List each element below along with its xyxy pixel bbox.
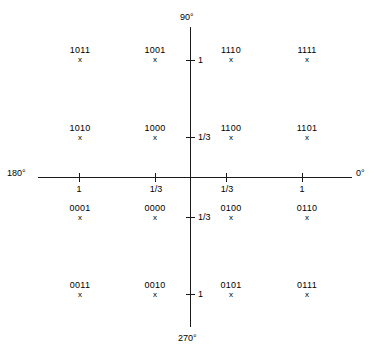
- tick-label-right-outer: 1: [299, 184, 304, 194]
- tick-label-top-inner: 1/3: [198, 132, 211, 142]
- constellation-point: 0010 x: [144, 280, 165, 299]
- tick-label-top-outer: 1: [198, 55, 203, 65]
- constellation-point: 1011 x: [70, 45, 91, 64]
- point-marker-icon: x: [221, 134, 242, 142]
- constellation-point: 0001 x: [69, 203, 90, 222]
- axis-label-90deg: 90°: [180, 12, 194, 22]
- horizontal-axis: [38, 177, 352, 178]
- point-marker-icon: x: [69, 214, 90, 222]
- axis-label-0deg: 0°: [356, 168, 365, 178]
- tick-label-left-inner: 1/3: [150, 184, 163, 194]
- constellation-point: 0110 x: [297, 203, 318, 222]
- tick-top-outer: [186, 60, 195, 61]
- constellation-point: 1111 x: [297, 45, 316, 64]
- constellation-point: 1101 x: [297, 123, 318, 142]
- point-marker-icon: x: [70, 56, 91, 64]
- point-marker-icon: x: [144, 56, 165, 64]
- constellation-point: 1110 x: [221, 45, 241, 64]
- point-marker-icon: x: [70, 291, 91, 299]
- constellation-point: 0111 x: [297, 280, 317, 299]
- tick-left-inner: [155, 173, 156, 182]
- tick-label-right-inner: 1/3: [221, 184, 234, 194]
- constellation-point: 1010 x: [69, 123, 90, 142]
- tick-bottom-inner: [186, 217, 195, 218]
- point-marker-icon: x: [297, 56, 316, 64]
- constellation-point: 0011 x: [70, 280, 91, 299]
- vertical-axis: [190, 27, 191, 327]
- point-marker-icon: x: [144, 291, 165, 299]
- constellation-point: 0101 x: [220, 280, 241, 299]
- tick-label-bottom-outer: 1: [198, 289, 203, 299]
- constellation-point: 0100 x: [220, 203, 241, 222]
- point-marker-icon: x: [220, 291, 241, 299]
- tick-label-left-outer: 1: [76, 184, 81, 194]
- point-marker-icon: x: [297, 214, 318, 222]
- axis-label-180deg: 180°: [7, 168, 26, 178]
- tick-label-bottom-inner: 1/3: [198, 212, 211, 222]
- tick-right-outer: [302, 173, 303, 182]
- point-marker-icon: x: [221, 56, 241, 64]
- constellation-point: 1001 x: [144, 45, 165, 64]
- tick-bottom-outer: [186, 294, 195, 295]
- constellation-point: 1000 x: [144, 123, 165, 142]
- point-marker-icon: x: [297, 134, 318, 142]
- tick-top-inner: [186, 137, 195, 138]
- constellation-point: 1100 x: [221, 123, 242, 142]
- tick-right-inner: [226, 173, 227, 182]
- point-marker-icon: x: [297, 291, 317, 299]
- tick-left-outer: [79, 173, 80, 182]
- point-marker-icon: x: [144, 134, 165, 142]
- axis-label-270deg: 270°: [178, 333, 197, 343]
- point-marker-icon: x: [69, 134, 90, 142]
- point-marker-icon: x: [220, 214, 241, 222]
- constellation-diagram: 0° 180° 90° 270° 1 1/3 1/3 1 1 1/3 1/3 1…: [0, 0, 374, 356]
- constellation-point: 0000 x: [144, 203, 165, 222]
- point-marker-icon: x: [144, 214, 165, 222]
